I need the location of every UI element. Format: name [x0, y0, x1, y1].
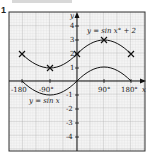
curve-label-sin-x: y = sin x — [28, 97, 60, 105]
x-tick-label-m90: -90° — [39, 86, 54, 94]
x-axis-label: x — [142, 86, 146, 94]
y-tick-label-m4: -4 — [66, 133, 73, 141]
y-tick-label-m1: -1 — [66, 91, 73, 99]
sine-graph: y x 4 3 2 1 -1 -2 -3 -4 -180 -90° 90° 18… — [0, 0, 148, 153]
x-tick-label-180: 180° — [121, 86, 138, 94]
y-tick-label-2: 2 — [70, 50, 74, 58]
y-tick-label-m2: -2 — [66, 105, 73, 113]
y-tick-label-1: 1 — [70, 64, 74, 72]
y-tick-label-m3: -3 — [66, 119, 73, 127]
y-tick-label-4: 4 — [70, 22, 75, 30]
curve-label-sin-x-plus-2: y = sin x° + 2 — [86, 27, 137, 35]
y-tick-label-3: 3 — [70, 36, 74, 44]
x-tick-label-90: 90° — [98, 86, 110, 94]
x-tick-label-m180: -180 — [11, 86, 27, 94]
